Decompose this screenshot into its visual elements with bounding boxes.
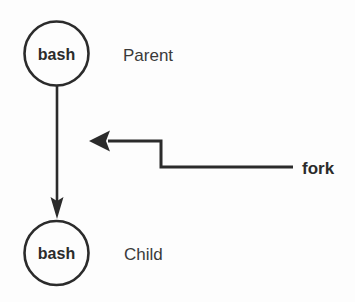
parent-role-label: Parent xyxy=(123,46,173,65)
child-process-label: bash xyxy=(38,245,76,262)
child-role-label: Child xyxy=(124,245,163,264)
parent-process-label: bash xyxy=(38,46,76,63)
fork-callout-arrowhead-icon xyxy=(89,131,110,152)
diagram-svg: bash Parent bash Child fork xyxy=(0,0,355,302)
fork-callout-leader-line xyxy=(108,141,293,167)
fork-callout-label: fork xyxy=(302,159,335,178)
diagram-canvas: bash Parent bash Child fork xyxy=(0,0,355,302)
